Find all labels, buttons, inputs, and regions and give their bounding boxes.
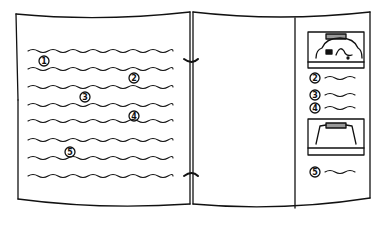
panel-callout-5: 5 xyxy=(312,168,318,177)
callout-5: 5 xyxy=(67,148,73,157)
callout-circles-panel xyxy=(310,73,320,177)
printer-illustration-bottom xyxy=(308,119,364,155)
right-page xyxy=(193,12,370,208)
callout-3: 3 xyxy=(82,93,88,102)
binder-spine xyxy=(190,12,193,204)
panel-callout-2: 2 xyxy=(312,74,318,83)
callout-1: 1 xyxy=(41,57,47,66)
printer-illustration-top xyxy=(308,32,364,68)
binder-diagram: 1 2 3 4 5 2 3 4 5 xyxy=(0,0,384,231)
callout-2: 2 xyxy=(131,74,137,83)
panel-callout-4: 4 xyxy=(312,104,318,113)
binder-ring-icon xyxy=(184,59,198,176)
callout-4: 4 xyxy=(131,112,137,121)
panel-callout-3: 3 xyxy=(312,91,318,100)
left-page-text-lines xyxy=(28,50,173,196)
